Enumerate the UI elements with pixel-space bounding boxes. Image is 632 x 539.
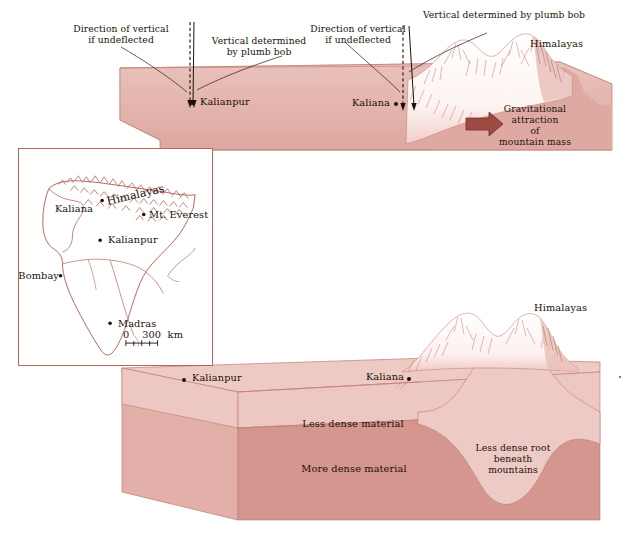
india-map-svg xyxy=(19,149,212,365)
figure-canvas: Direction of vertical if undeflected Ver… xyxy=(0,0,632,539)
station-dot-kalianpur-lower xyxy=(182,378,186,382)
layer-label-less-dense: Less dense material xyxy=(278,418,428,430)
map-label-kalianpur: Kalianpur xyxy=(108,234,158,246)
station-label-kaliana-lower: Kaliana xyxy=(336,371,404,383)
map-label-bombay: Bombay xyxy=(15,270,59,282)
map-scale-bar-label: 0 300 km xyxy=(123,329,183,341)
map-dot-mt-everest xyxy=(142,213,146,217)
station-label-kalianpur-lower: Kalianpur xyxy=(192,372,242,384)
map-dot-bombay xyxy=(59,274,63,278)
india-inset-map: Himalayas Kaliana Mt. Everest Kalianpur … xyxy=(18,148,213,366)
map-label-kaliana: Kaliana xyxy=(35,203,93,215)
layer-label-more-dense: More dense material xyxy=(276,463,432,475)
map-dot-madras xyxy=(108,322,112,326)
map-label-madras: Madras xyxy=(118,318,156,330)
map-scale-bar-icon xyxy=(126,340,158,346)
station-dot-kaliana-lower xyxy=(407,377,411,381)
map-dot-kalianpur xyxy=(98,238,102,242)
map-label-mt-everest: Mt. Everest xyxy=(149,209,208,221)
map-dot-kaliana xyxy=(100,199,104,203)
range-label-himalayas-lower: Himalayas xyxy=(534,302,587,314)
layer-label-root: Less dense root beneath mountains xyxy=(455,443,571,476)
